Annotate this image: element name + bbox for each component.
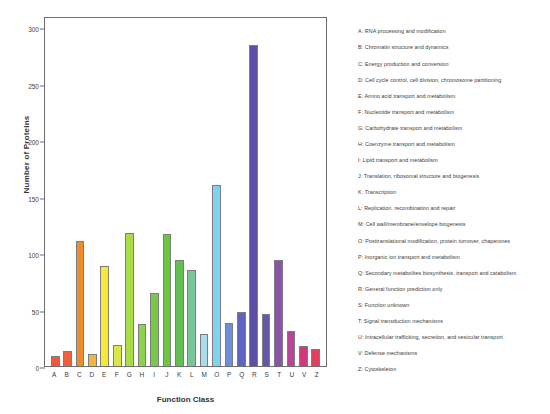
bar-slot [74, 18, 86, 366]
bar-h [138, 324, 147, 366]
x-tick-label: D [86, 371, 99, 378]
x-tick-label: F [111, 371, 124, 378]
bar-slot [210, 18, 222, 366]
x-tick-label: V [298, 371, 311, 378]
bar-slot [61, 18, 73, 366]
legend-item: K: Transcription [358, 185, 550, 201]
bar-slot [136, 18, 148, 366]
bar-f [113, 345, 122, 366]
legend-item: C: Energy production and conversion [358, 56, 550, 72]
bar-slot [161, 18, 173, 366]
legend-item: F: Nucleotide transport and metabolism [358, 104, 550, 120]
bar-slot [185, 18, 197, 366]
bar-slot [123, 18, 135, 366]
bar-slot [285, 18, 297, 366]
x-tick-label: U [286, 371, 299, 378]
bar-slot [310, 18, 322, 366]
bar-slot [99, 18, 111, 366]
bar-slot [173, 18, 185, 366]
legend-item: Q: Secondary metabolites biosynthesis, t… [358, 265, 550, 281]
legend-item: G: Carbohydrate transport and metabolism [358, 121, 550, 137]
x-tick-label: Z [311, 371, 324, 378]
legend-item: H: Coenzyme transport and metabolism [358, 137, 550, 153]
chart-area: Number of Proteins 050100150200250300 AB… [0, 0, 350, 414]
bar-r [249, 45, 258, 366]
y-tick-mark [40, 368, 45, 369]
x-tick-label: E [98, 371, 111, 378]
legend-item: J: Translation, ribosomal structure and … [358, 169, 550, 185]
bar-i [150, 293, 159, 366]
bar-series [45, 18, 326, 366]
bar-k [175, 260, 184, 366]
legend-item: O: Posttranslational modification, prote… [358, 233, 550, 249]
bar-o [212, 185, 221, 366]
legend: A: RNA processing and modificationB: Chr… [358, 24, 550, 378]
bar-a [51, 356, 60, 366]
legend-item: I: Lipid transport and metabolism [358, 153, 550, 169]
legend-item: U: Intracellular trafficking, secretion,… [358, 330, 550, 346]
bar-slot [111, 18, 123, 366]
bar-slot [198, 18, 210, 366]
bar-e [100, 266, 109, 366]
x-tick-label: S [261, 371, 274, 378]
x-tick-label: T [273, 371, 286, 378]
bar-u [287, 331, 296, 366]
bar-z [311, 349, 320, 366]
bar-slot [86, 18, 98, 366]
x-tick-label: Q [236, 371, 249, 378]
bar-g [125, 233, 134, 366]
bar-v [299, 346, 308, 366]
x-tick-label: K [173, 371, 186, 378]
x-tick-label: C [73, 371, 86, 378]
x-tick-label: H [136, 371, 149, 378]
x-tick-label: I [148, 371, 161, 378]
legend-item: Z: Cytoskeleton [358, 362, 550, 378]
legend-item: S: Function unknown [358, 298, 550, 314]
bar-s [262, 314, 271, 366]
bar-j [163, 234, 172, 366]
legend-item: M: Cell wall/membrane/envelope biogenesi… [358, 217, 550, 233]
y-axis-title: Number of Proteins [22, 85, 31, 225]
bar-q [237, 312, 246, 366]
bar-slot [272, 18, 284, 366]
x-tick-label: J [161, 371, 174, 378]
bar-slot [235, 18, 247, 366]
bar-slot [260, 18, 272, 366]
legend-item: V: Defense mechanisms [358, 346, 550, 362]
legend-item: R: General function prediction only [358, 282, 550, 298]
x-tick-label: A [48, 371, 61, 378]
bar-l [187, 270, 196, 366]
bar-slot [297, 18, 309, 366]
bar-b [63, 351, 72, 366]
legend-item: L: Replication, recombination and repair [358, 201, 550, 217]
x-axis-ticks: ABCDEFGHIJKLMOPQRSTUVZ [44, 371, 327, 378]
legend-item: P: Inorganic ion transport and metabolis… [358, 249, 550, 265]
legend-item: B: Chromatin structure and dynamics [358, 40, 550, 56]
bar-slot [148, 18, 160, 366]
x-axis-title: Function Class [44, 395, 327, 404]
bar-m [200, 334, 209, 366]
x-tick-label: R [248, 371, 261, 378]
bar-p [225, 323, 234, 366]
legend-item: A: RNA processing and modification [358, 24, 550, 40]
bar-t [274, 260, 283, 366]
x-tick-label: B [61, 371, 74, 378]
x-tick-label: O [211, 371, 224, 378]
x-tick-label: L [186, 371, 199, 378]
x-tick-label: M [198, 371, 211, 378]
bar-slot [49, 18, 61, 366]
legend-item: D: Cell cycle control, cell division, ch… [358, 72, 550, 88]
bar-slot [248, 18, 260, 366]
cog-function-class-chart: Number of Proteins 050100150200250300 AB… [0, 0, 550, 414]
legend-item: E: Amino acid transport and metabolism [358, 88, 550, 104]
bar-d [88, 354, 97, 366]
x-tick-label: G [123, 371, 136, 378]
x-tick-label: P [223, 371, 236, 378]
plot-frame: 050100150200250300 [44, 17, 327, 367]
legend-item: T: Signal transduction mechanisms [358, 314, 550, 330]
bar-slot [223, 18, 235, 366]
bar-c [76, 241, 85, 366]
